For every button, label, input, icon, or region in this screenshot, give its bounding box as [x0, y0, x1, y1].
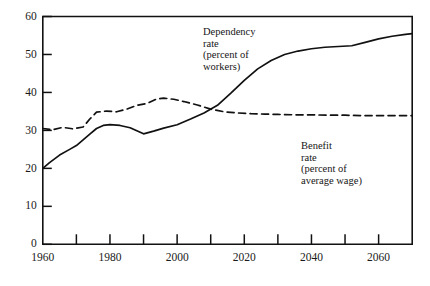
y-tick-label-30: 30 [25, 124, 37, 136]
y-tick-label-20: 20 [25, 162, 37, 174]
x-tick-label-1980: 1980 [98, 251, 121, 263]
chart-container: 0102030405060 196019802000202020402060 D… [0, 0, 430, 286]
x-tick-label-2020: 2020 [233, 251, 256, 263]
x-tick-label-2040: 2040 [300, 251, 323, 263]
y-tick-label-0: 0 [31, 237, 37, 249]
benefit-annotation-line-2: (percent of [301, 163, 362, 175]
benefit-annotation-line-0: Benefit [301, 140, 362, 152]
y-tick-label-60: 60 [25, 10, 37, 22]
x-tick-label-2000: 2000 [166, 251, 189, 263]
series-line-benefit-rate [43, 98, 412, 130]
y-tick-label-50: 50 [25, 48, 37, 60]
y-tick-label-40: 40 [25, 86, 37, 98]
dependency-annotation-line-0: Dependency [203, 26, 255, 38]
dependency-rate-annotation: Dependencyrate(percent ofworkers) [203, 26, 255, 72]
dependency-annotation-line-2: (percent of [203, 49, 255, 61]
x-axis-ticks: 196019802000202020402060 [31, 234, 390, 263]
x-tick-label-2060: 2060 [367, 251, 390, 263]
x-tick-label-1960: 1960 [31, 251, 54, 263]
y-tick-label-10: 10 [25, 199, 37, 211]
benefit-annotation-line-1: rate [301, 152, 362, 164]
benefit-rate-annotation: Benefitrate(percent ofaverage wage) [301, 140, 362, 186]
dependency-annotation-line-3: workers) [203, 61, 255, 73]
dependency-annotation-line-1: rate [203, 38, 255, 50]
benefit-annotation-line-3: average wage) [301, 175, 362, 187]
